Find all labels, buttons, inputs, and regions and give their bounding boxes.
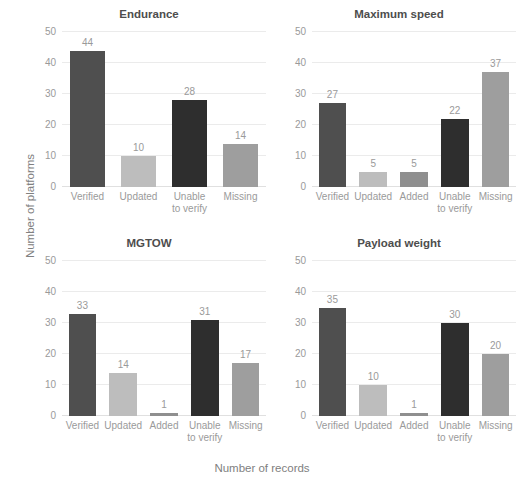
bar-added[interactable] — [150, 413, 178, 416]
y-axis-tick-label: 20 — [295, 348, 306, 359]
bar-slot: 31 — [184, 261, 225, 416]
bar-updated[interactable] — [109, 373, 137, 416]
bar-slot: 1 — [144, 261, 185, 416]
bar-slot: 10 — [113, 32, 164, 187]
bar-slot: 33 — [62, 261, 103, 416]
bar-slot: 30 — [434, 261, 475, 416]
bar-slot: 10 — [353, 261, 394, 416]
x-axis-tick-label: Added — [394, 420, 435, 443]
panel-title: Endurance — [24, 8, 274, 20]
x-axis-tick-label: Unable to verify — [434, 191, 475, 214]
y-axis-tick-label: 50 — [45, 255, 56, 266]
bar-value-label: 22 — [449, 106, 460, 116]
bar-added[interactable] — [400, 172, 428, 188]
bar-slot: 5 — [353, 32, 394, 187]
panel-mgtow: MGTOW01020304050331413117VerifiedUpdated… — [24, 229, 274, 458]
y-axis-tick-label: 0 — [300, 181, 306, 192]
panel-title: Maximum speed — [274, 8, 524, 20]
y-axis-tick-label: 40 — [45, 57, 56, 68]
x-axis-tick-label: Updated — [103, 420, 144, 443]
x-axis-tick-label: Unable to verify — [434, 420, 475, 443]
bar-slot: 44 — [62, 32, 113, 187]
x-axis-tick-label: Updated — [353, 420, 394, 443]
bar-slot: 1 — [394, 261, 435, 416]
bar-series: 331413117 — [62, 261, 266, 416]
bar-value-label: 1 — [161, 400, 167, 410]
panel-title: Payload weight — [274, 237, 524, 249]
bar-value-label: 31 — [199, 307, 210, 317]
x-axis-tick-label: Updated — [113, 191, 164, 214]
bar-value-label: 5 — [411, 159, 417, 169]
figure: Number of platforms Number of records En… — [0, 0, 524, 485]
y-axis-tick-label: 40 — [45, 286, 56, 297]
bar-value-label: 44 — [82, 38, 93, 48]
bar-verified[interactable] — [319, 308, 347, 417]
bar-added[interactable] — [400, 413, 428, 416]
bar-value-label: 28 — [184, 87, 195, 97]
bar-series: 27552237 — [312, 32, 516, 187]
bar-unable-to-verify[interactable] — [172, 100, 207, 187]
x-axis-tick-labels: VerifiedUpdatedUnable to verifyMissing — [62, 191, 266, 214]
bar-missing[interactable] — [223, 144, 258, 187]
x-axis-tick-label: Verified — [62, 420, 103, 443]
y-axis-tick-label: 30 — [295, 317, 306, 328]
bar-series: 351013020 — [312, 261, 516, 416]
bar-value-label: 14 — [118, 360, 129, 370]
x-axis-tick-label: Missing — [475, 191, 516, 214]
bar-missing[interactable] — [232, 363, 260, 416]
bar-unable-to-verify[interactable] — [441, 323, 469, 416]
x-axis-tick-label: Updated — [353, 191, 394, 214]
x-axis-tick-label: Missing — [475, 420, 516, 443]
y-axis-tick-label: 40 — [295, 57, 306, 68]
y-axis-tick-label: 0 — [50, 181, 56, 192]
x-axis-tick-label: Missing — [225, 420, 266, 443]
bar-value-label: 20 — [490, 341, 501, 351]
bar-value-label: 10 — [368, 372, 379, 382]
panel-maximum-speed: Maximum speed0102030405027552237Verified… — [274, 0, 524, 229]
x-axis-tick-labels: VerifiedUpdatedAddedUnable to verifyMiss… — [312, 191, 516, 214]
x-axis-tick-label: Unable to verify — [164, 191, 215, 214]
bar-value-label: 30 — [449, 310, 460, 320]
bar-slot: 17 — [225, 261, 266, 416]
bar-verified[interactable] — [319, 103, 347, 187]
bar-unable-to-verify[interactable] — [191, 320, 219, 416]
bar-unable-to-verify[interactable] — [441, 119, 469, 187]
bar-series: 44102814 — [62, 32, 266, 187]
y-axis-tick-label: 30 — [295, 88, 306, 99]
panel-title: MGTOW — [24, 237, 274, 249]
y-axis-tick-label: 20 — [45, 119, 56, 130]
bar-value-label: 33 — [77, 301, 88, 311]
y-axis-tick-label: 40 — [295, 286, 306, 297]
bar-missing[interactable] — [482, 72, 510, 187]
bar-value-label: 1 — [411, 400, 417, 410]
bar-slot: 5 — [394, 32, 435, 187]
x-axis-tick-label: Added — [144, 420, 185, 443]
bar-updated[interactable] — [121, 156, 156, 187]
y-axis-tick-label: 10 — [45, 379, 56, 390]
bar-updated[interactable] — [359, 172, 387, 188]
bar-verified[interactable] — [70, 51, 105, 187]
x-axis-title: Number of records — [0, 462, 524, 474]
bar-updated[interactable] — [359, 385, 387, 416]
bar-value-label: 37 — [490, 59, 501, 69]
bar-slot: 28 — [164, 32, 215, 187]
plot-area: 01020304050351013020 — [312, 261, 516, 416]
bar-verified[interactable] — [69, 314, 97, 416]
bar-value-label: 14 — [235, 131, 246, 141]
y-axis-tick-label: 20 — [45, 348, 56, 359]
y-axis-tick-label: 0 — [50, 410, 56, 421]
x-axis-tick-label: Verified — [312, 420, 353, 443]
y-axis-tick-label: 30 — [45, 88, 56, 99]
plot-area: 0102030405044102814 — [62, 32, 266, 187]
x-axis-tick-label: Unable to verify — [184, 420, 225, 443]
x-axis-tick-label: Missing — [215, 191, 266, 214]
y-axis-tick-label: 20 — [295, 119, 306, 130]
y-axis-tick-label: 10 — [295, 379, 306, 390]
bar-missing[interactable] — [482, 354, 510, 416]
y-axis-tick-label: 50 — [45, 26, 56, 37]
x-axis-tick-label: Verified — [312, 191, 353, 214]
bar-value-label: 17 — [240, 350, 251, 360]
bar-slot: 22 — [434, 32, 475, 187]
y-axis-tick-label: 30 — [45, 317, 56, 328]
y-axis-tick-label: 50 — [295, 255, 306, 266]
